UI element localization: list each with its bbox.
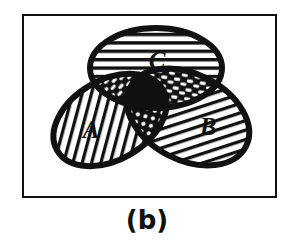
venn-label-A: A [81, 116, 100, 143]
figure-caption: (b) [0, 200, 294, 240]
figure-frame: A B C [22, 14, 277, 198]
figure-container: A B C (b) [0, 0, 294, 244]
venn-diagram: A B C [24, 16, 275, 196]
venn-label-B: B [199, 113, 217, 140]
venn-label-C: C [149, 47, 166, 74]
